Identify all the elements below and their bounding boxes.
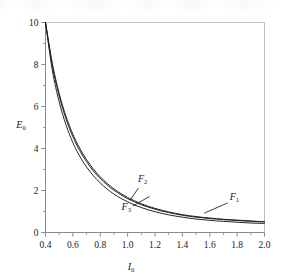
x-tick-label: 1.6 <box>204 240 216 250</box>
x-tick-label: 0.4 <box>40 240 52 250</box>
curve-label-F2: F2 <box>137 173 147 185</box>
leader-line-F2 <box>130 188 138 200</box>
y-tick-label: 2 <box>34 186 39 196</box>
x-tick-label: 0.6 <box>67 240 79 250</box>
y-tick-label: 10 <box>29 18 39 28</box>
y-tick-label: 8 <box>34 60 39 70</box>
y-tick-label: 6 <box>34 102 39 112</box>
y-tick-label: 4 <box>34 144 39 154</box>
x-axis-title: I0 <box>127 261 135 273</box>
curve-label-F1: F1 <box>229 191 239 203</box>
x-tick-label: 1.4 <box>176 240 188 250</box>
curve-label-leaders <box>130 188 227 213</box>
y-axis-title: E0 <box>15 119 26 131</box>
x-tick-label: 0.8 <box>94 240 106 250</box>
y-tick-label: 0 <box>34 228 39 238</box>
leader-line-F1 <box>204 203 227 213</box>
chart-svg: 0.40.60.81.01.21.41.61.82.00246810 F1F2F… <box>0 0 282 279</box>
x-tick-label: 1.8 <box>231 240 243 250</box>
curve-labels: F1F2F3 <box>121 173 240 213</box>
x-tick-label: 2.0 <box>259 240 271 250</box>
x-tick-label: 1.0 <box>122 240 134 250</box>
x-tick-label: 1.2 <box>149 240 161 250</box>
chart-figure: 0.40.60.81.01.21.41.61.82.00246810 F1F2F… <box>0 0 282 279</box>
axis-tick-labels: 0.40.60.81.01.21.41.61.82.00246810 <box>29 18 271 250</box>
axis-ticks <box>41 23 264 237</box>
